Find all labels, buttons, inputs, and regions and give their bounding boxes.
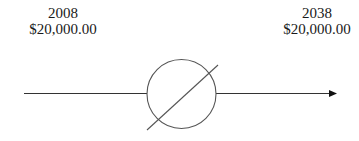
timeline-diagram <box>0 0 359 141</box>
slash-line <box>147 65 218 130</box>
circle-symbol <box>147 60 216 129</box>
arrowhead-icon <box>329 90 337 97</box>
